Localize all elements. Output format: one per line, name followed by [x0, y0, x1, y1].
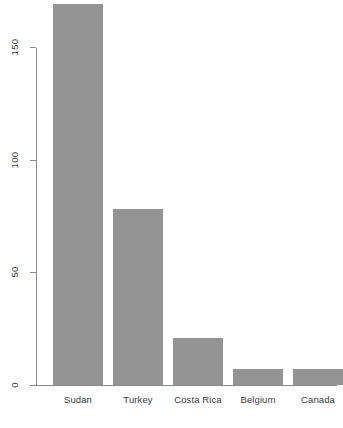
x-axis-label: Canada — [301, 393, 335, 406]
bar — [113, 209, 163, 385]
plot-area: 050100150 — [0, 0, 341, 386]
x-axis-label: Turkey — [123, 393, 152, 406]
bars-group — [0, 0, 341, 386]
bar — [173, 338, 223, 385]
x-axis-label: Sudan — [64, 393, 92, 406]
bar — [53, 4, 103, 385]
bar — [233, 369, 283, 385]
x-axis-label: Costa Rica — [174, 393, 221, 406]
x-axis-label: Belgium — [240, 393, 275, 406]
x-axis-labels: SudanTurkeyCosta RicaBelgiumCanada — [0, 393, 341, 413]
bar — [293, 369, 343, 385]
